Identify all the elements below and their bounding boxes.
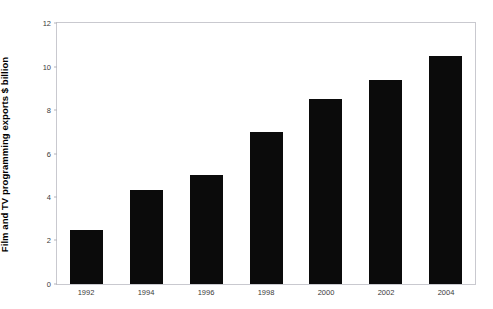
y-tick-label: 2 xyxy=(47,236,54,245)
x-tick-label-1996: 1996 xyxy=(176,288,236,302)
bar-slot xyxy=(415,23,475,284)
y-tick-label: 12 xyxy=(43,19,54,28)
x-tick-label-2002: 2002 xyxy=(356,288,416,302)
y-tick-label: 6 xyxy=(47,149,54,158)
x-axis-labels: 1992 1994 1996 1998 2000 2002 2004 xyxy=(56,288,476,302)
bar-slot xyxy=(117,23,177,284)
chart-screenshot: · · · Film and TV programming exports $ … xyxy=(0,0,493,309)
y-axis-title: Film and TV programming exports $ billio… xyxy=(0,0,26,309)
y-tick-8: 8 xyxy=(47,105,57,114)
top-caption-fragment: · · · xyxy=(0,0,493,7)
bar-1992[interactable] xyxy=(70,230,103,284)
bar-2002[interactable] xyxy=(369,80,402,284)
bar-slot xyxy=(176,23,236,284)
bar-slot xyxy=(356,23,416,284)
y-tick-12: 12 xyxy=(43,19,57,28)
bar-2004[interactable] xyxy=(429,56,462,284)
y-tick-2: 2 xyxy=(47,236,57,245)
y-tick-label: 4 xyxy=(47,193,54,202)
bars-layer xyxy=(57,23,475,284)
x-tick-label-1992: 1992 xyxy=(56,288,116,302)
x-tick-label-2004: 2004 xyxy=(416,288,476,302)
bar-1996[interactable] xyxy=(190,175,223,284)
bar-slot xyxy=(236,23,296,284)
plot-area: 12 10 8 6 4 2 xyxy=(56,22,476,285)
bar-slot xyxy=(296,23,356,284)
y-tick-label: 8 xyxy=(47,105,54,114)
y-tick-label: 10 xyxy=(43,62,54,71)
x-tick-label-2000: 2000 xyxy=(296,288,356,302)
bar-2000[interactable] xyxy=(309,99,342,284)
plot-inner: 12 10 8 6 4 2 xyxy=(57,23,475,284)
bar-slot xyxy=(57,23,117,284)
y-tick-label: 0 xyxy=(47,280,54,289)
x-tick-label-1998: 1998 xyxy=(236,288,296,302)
y-tick-6: 6 xyxy=(47,149,57,158)
bar-1994[interactable] xyxy=(130,190,163,284)
bar-1998[interactable] xyxy=(250,132,283,284)
y-tick-10: 10 xyxy=(43,62,57,71)
y-tick-4: 4 xyxy=(47,193,57,202)
x-tick-label-1994: 1994 xyxy=(116,288,176,302)
